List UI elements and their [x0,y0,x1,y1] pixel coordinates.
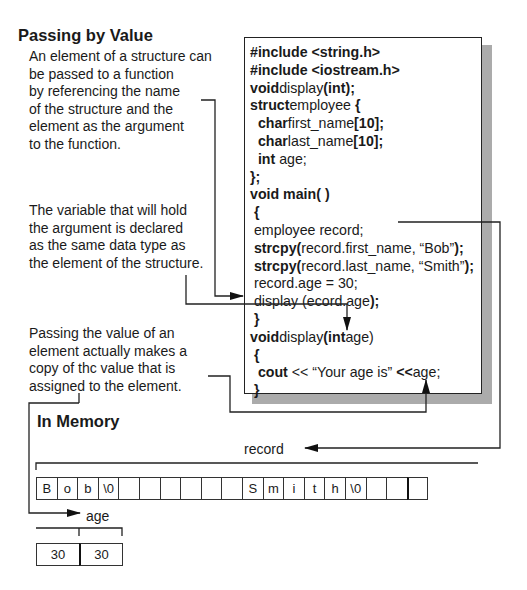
arrow-note1-to-call [201,100,243,296]
arrow-record-to-memory [305,222,500,448]
arrow-call-to-function [186,275,347,330]
age-bracket [36,528,122,536]
arrow-note3-to-age [208,376,426,412]
connector-lines [0,0,527,590]
record-bracket [36,463,478,470]
arrow-memory-to-age [29,393,80,513]
